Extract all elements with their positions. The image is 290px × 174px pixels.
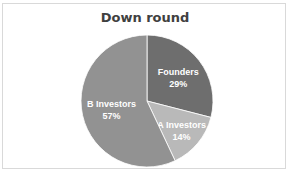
pie-chart: Founders29%A Investors14%B Investors57% [0, 0, 290, 174]
slice-label-category: B Investors [87, 99, 136, 109]
slice-label-percent: 29% [169, 79, 187, 89]
slice-label-percent: 14% [173, 132, 191, 142]
slice-label-category: Founders [158, 67, 199, 77]
slice-label-percent: 57% [103, 111, 121, 121]
slice-label-category: A Investors [157, 120, 206, 130]
